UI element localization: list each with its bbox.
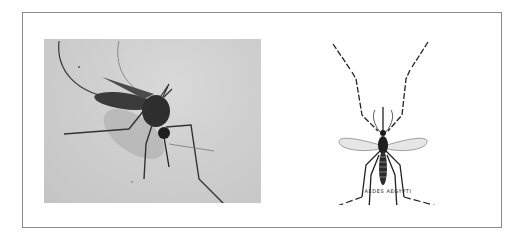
aedes-aegypti-drawing: [300, 35, 470, 205]
mosquito-photo-drawing: [44, 39, 261, 203]
mosquito-photograph: [44, 39, 261, 203]
mosquito-illustration: [300, 35, 470, 205]
illustration-caption: AEDES AEGYPTI: [355, 188, 421, 194]
